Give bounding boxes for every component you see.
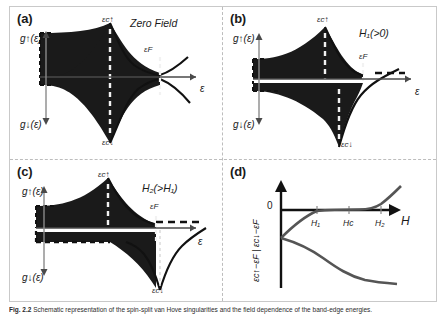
- panel-d-plot: [223, 160, 436, 301]
- panel-a-plot: [10, 7, 222, 159]
- panel-c: (c) H₂(>H₁) g↑(ε) g↓(ε) ε εc↑ εc↓ εF: [10, 160, 222, 301]
- panel-d: (d) εc↑−εF | εc↓−εF H 0 H₁ Hc H₂: [223, 160, 436, 301]
- panel-b: (b) H₁(>0) g↑(ε) g↓(ε) ε εc↑ εc↓ εF: [223, 7, 436, 159]
- figure-caption: Fig. 2.2 Schematic representation of the…: [9, 306, 439, 320]
- panel-c-plot: [10, 160, 222, 301]
- figure-caption-label: Fig. 2.2: [9, 306, 31, 313]
- panel-a: (a) Zero Field g↑(ε) g↓(ε) ε εc↑ εc↓ εF: [10, 7, 222, 159]
- figure-root: (a) Zero Field g↑(ε) g↓(ε) ε εc↑ εc↓ εF: [0, 0, 447, 321]
- figure-caption-text: Schematic representation of the spin-spl…: [33, 306, 372, 313]
- panel-b-plot: [223, 7, 436, 159]
